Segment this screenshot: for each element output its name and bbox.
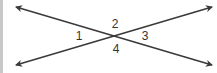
angle-label-2: 2 xyxy=(112,17,119,31)
angle-label-4: 4 xyxy=(113,42,120,56)
angle-label-1: 1 xyxy=(76,29,83,43)
angle-diagram: 1 2 3 4 xyxy=(0,0,217,73)
angle-label-3: 3 xyxy=(142,29,149,43)
